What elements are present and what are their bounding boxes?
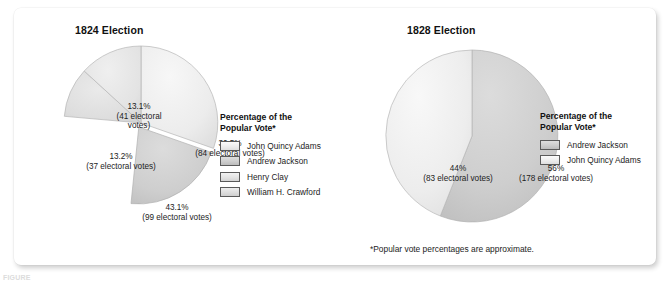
chart-panel-1824: 1824 Election xyxy=(14,8,344,265)
legend-item-william-h-crawford-1824: William H. Crawford xyxy=(220,186,340,199)
legend-label-william-h-crawford-1824: William H. Crawford xyxy=(247,187,320,197)
legend-label-john-quincy-adams-1824: John Quincy Adams xyxy=(247,141,321,151)
legend-item-henry-clay-1824: Henry Clay xyxy=(220,170,340,183)
legend-swatch-john-quincy-adams-1824 xyxy=(220,141,240,151)
legend-title-1828-line2: Popular Vote* xyxy=(540,122,656,133)
legend-label-andrew-jackson-1824: Andrew Jackson xyxy=(247,156,308,166)
legend-swatch-henry-clay-1824 xyxy=(220,172,240,182)
slice-label-jackson-1824-votes: (99 electoral votes) xyxy=(123,213,231,223)
legend-title-1828: Percentage of the Popular Vote* xyxy=(540,111,656,132)
legend-swatch-john-quincy-adams-1828 xyxy=(540,155,560,165)
legend-swatch-andrew-jackson-1828 xyxy=(540,140,560,150)
legend-swatch-william-h-crawford-1824 xyxy=(220,187,240,197)
legend-item-john-quincy-adams-1828: John Quincy Adams xyxy=(540,154,656,167)
pie-chart-1824: 30.5% (84 electoral votes) 13.1% (41 ele… xyxy=(58,43,224,209)
figure-root: 1824 Election xyxy=(0,0,671,288)
footnote: *Popular vote percentages are approximat… xyxy=(370,244,534,254)
chart-panel-1828: 1828 Election xyxy=(344,8,656,265)
legend-label-andrew-jackson-1828: Andrew Jackson xyxy=(567,140,628,150)
legend-item-andrew-jackson-1828: Andrew Jackson xyxy=(540,138,656,151)
pie-chart-1828: 44% (83 electoral votes) 56% (178 electo… xyxy=(382,46,562,226)
legend-item-andrew-jackson-1824: Andrew Jackson xyxy=(220,155,340,168)
chart-title-1824: 1824 Election xyxy=(75,24,143,36)
legend-title-1824-line2: Popular Vote* xyxy=(220,123,340,134)
figure-card: 1824 Election xyxy=(14,8,656,265)
chart-title-1828: 1828 Election xyxy=(407,24,475,36)
legend-label-john-quincy-adams-1828: John Quincy Adams xyxy=(567,155,641,165)
legend-item-john-quincy-adams-1824: John Quincy Adams xyxy=(220,139,340,152)
legend-label-henry-clay-1824: Henry Clay xyxy=(247,172,288,182)
caption-fragment: FIGURE xyxy=(3,274,31,281)
legend-swatch-andrew-jackson-1824 xyxy=(220,156,240,166)
legend-title-1824-line1: Percentage of the xyxy=(220,112,340,123)
legend-title-1824: Percentage of the Popular Vote* xyxy=(220,112,340,133)
legend-title-1828-line1: Percentage of the xyxy=(540,111,656,122)
legend-1824: Percentage of the Popular Vote* John Qui… xyxy=(220,112,340,201)
legend-1828: Percentage of the Popular Vote* Andrew J… xyxy=(540,111,656,169)
